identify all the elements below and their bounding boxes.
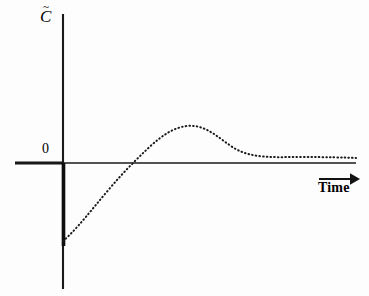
- y-axis-symbol: ~C: [40, 8, 51, 25]
- zero-tick-label: 0: [42, 142, 49, 156]
- x-axis-label: Time: [318, 181, 350, 195]
- tilde-accent: ~: [43, 0, 49, 13]
- plot-canvas: [0, 0, 369, 296]
- y-axis-label: ~C: [40, 8, 51, 25]
- response-curve: [63, 126, 356, 241]
- inverse-response-figure: ~C 0 Time: [0, 0, 369, 296]
